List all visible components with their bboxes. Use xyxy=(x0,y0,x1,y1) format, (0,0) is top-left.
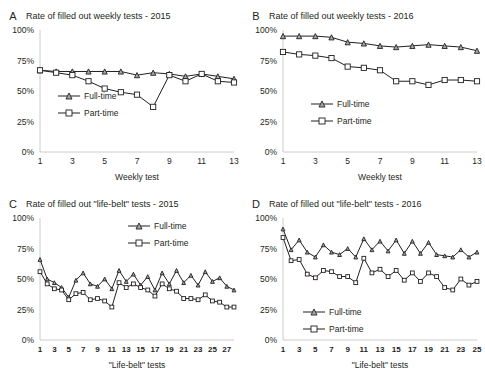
panel-a-plot: 0%25%50%75%100%135791113Weekly testFull-… xyxy=(0,24,242,188)
data-point-marker-part-time xyxy=(386,275,390,279)
panel-d-title-row: D Rate of filled out "life-belt" tests -… xyxy=(243,196,485,212)
x-tick-label: 19 xyxy=(165,345,174,354)
x-tick-label: 5 xyxy=(67,345,72,354)
data-point-marker-part-time xyxy=(338,275,342,279)
data-point-marker-part-time xyxy=(281,236,285,240)
data-point-marker-part-time xyxy=(199,71,204,76)
data-point-marker-part-time xyxy=(134,92,139,97)
data-point-marker-part-time xyxy=(67,298,71,302)
data-point-marker-part-time xyxy=(354,281,358,285)
data-point-marker-part-time xyxy=(361,65,366,70)
data-point-marker-full-time xyxy=(459,248,463,252)
x-tick-label: 3 xyxy=(70,156,75,166)
x-tick-label: 5 xyxy=(102,156,107,166)
data-point-marker-part-time xyxy=(146,288,150,292)
panel-d-title: Rate of filled out "life-belt" tests - 2… xyxy=(269,199,421,209)
x-tick-label: 3 xyxy=(313,156,318,166)
y-tick-label: 25% xyxy=(260,305,277,315)
data-point-marker-part-time xyxy=(410,271,414,275)
x-tick-label: 13 xyxy=(229,156,239,166)
data-point-marker-part-time xyxy=(175,289,179,293)
x-tick-label: 9 xyxy=(167,156,172,166)
y-tick-label: 0% xyxy=(22,147,35,157)
x-tick-label: 1 xyxy=(281,345,286,354)
y-tick-label: 100% xyxy=(255,213,277,223)
data-point-marker-part-time xyxy=(297,52,302,57)
data-point-marker-part-time xyxy=(160,282,164,286)
data-point-marker-part-time xyxy=(103,299,107,303)
x-tick-label: 25 xyxy=(473,345,482,354)
data-point-marker-full-time xyxy=(117,269,121,273)
data-point-marker-part-time xyxy=(37,68,42,73)
panel-a-title: Rate of filled out weekly tests - 2015 xyxy=(26,11,171,21)
data-point-marker-part-time xyxy=(474,79,479,84)
data-point-marker-part-time xyxy=(329,55,334,60)
data-point-marker-part-time xyxy=(442,77,447,82)
data-point-marker-part-time xyxy=(427,271,431,275)
data-point-marker-part-time xyxy=(139,286,143,290)
data-point-marker-part-time xyxy=(346,275,350,279)
x-tick-label: 7 xyxy=(135,156,140,166)
x-tick-label: 17 xyxy=(151,345,160,354)
data-point-marker-full-time xyxy=(175,269,179,273)
data-point-marker-part-time xyxy=(280,49,285,54)
x-tick-label: 11 xyxy=(360,345,369,354)
legend-label-full-time: Full-time xyxy=(154,221,187,231)
x-tick-label: 9 xyxy=(345,345,350,354)
data-point-marker-part-time xyxy=(151,104,156,109)
y-tick-label: 0% xyxy=(265,335,278,345)
data-point-marker-full-time xyxy=(378,239,382,243)
panel-c-plot: 0%25%50%75%100%13579111315171921232527"L… xyxy=(0,212,242,376)
y-tick-label: 75% xyxy=(260,56,277,66)
panel-d-plot: 0%25%50%75%100%13579111315171921232527"L… xyxy=(243,212,485,376)
x-tick-label: 11 xyxy=(440,156,449,166)
data-point-marker-part-time xyxy=(232,305,236,309)
data-point-marker-part-time xyxy=(86,79,91,84)
y-tick-label: 100% xyxy=(12,213,34,223)
legend-marker-part-time xyxy=(136,240,142,246)
x-tick-label: 17 xyxy=(408,345,417,354)
data-point-marker-full-time xyxy=(45,277,49,281)
chart-panel-b: B Rate of filled out weekly tests - 2016… xyxy=(243,0,485,188)
data-point-marker-part-time xyxy=(38,270,42,274)
data-point-marker-part-time xyxy=(118,90,123,95)
legend-label-full-time: Full-time xyxy=(84,91,117,101)
panel-b-title: Rate of filled out weekly tests - 2016 xyxy=(269,11,414,21)
data-point-marker-part-time xyxy=(377,68,382,73)
data-point-marker-part-time xyxy=(378,267,382,271)
legend-marker-part-time xyxy=(66,110,72,116)
panel-c-title: Rate of filled out "life-belt" tests - 2… xyxy=(26,199,178,209)
panel-a-title-row: A Rate of filled out weekly tests - 2015 xyxy=(0,8,242,24)
data-point-marker-part-time xyxy=(52,287,56,291)
data-point-marker-part-time xyxy=(110,305,114,309)
data-point-marker-part-time xyxy=(60,288,64,292)
data-point-marker-part-time xyxy=(203,293,207,297)
series-line-full-time xyxy=(40,259,234,297)
y-tick-label: 50% xyxy=(17,86,34,96)
data-point-marker-full-time xyxy=(103,277,107,281)
x-tick-label: 19 xyxy=(424,345,433,354)
data-point-marker-part-time xyxy=(426,82,431,87)
data-point-marker-full-time xyxy=(427,241,431,245)
x-tick-label: 3 xyxy=(297,345,302,354)
legend-label-part-time: Part-time xyxy=(84,108,119,118)
x-tick-label: 7 xyxy=(81,345,86,354)
data-point-marker-part-time xyxy=(458,77,463,82)
data-point-marker-part-time xyxy=(215,79,220,84)
y-tick-label: 100% xyxy=(255,25,277,35)
series-line-part-time xyxy=(283,238,477,290)
y-tick-label: 75% xyxy=(17,56,34,66)
data-point-marker-full-time xyxy=(218,276,222,280)
x-tick-label: 5 xyxy=(313,345,318,354)
data-point-marker-part-time xyxy=(54,70,59,75)
panel-b-svg: 0%25%50%75%100%135791113Weekly testFull-… xyxy=(243,24,485,188)
x-tick-label: 1 xyxy=(38,156,43,166)
data-point-marker-part-time xyxy=(345,64,350,69)
x-tick-label: 13 xyxy=(122,345,131,354)
y-tick-label: 50% xyxy=(260,86,277,96)
data-point-marker-part-time xyxy=(394,269,398,273)
data-point-marker-part-time xyxy=(435,275,439,279)
data-point-marker-part-time xyxy=(153,294,157,298)
panel-a-letter: A xyxy=(0,10,26,22)
panel-b-title-row: B Rate of filled out weekly tests - 2016 xyxy=(243,8,485,24)
